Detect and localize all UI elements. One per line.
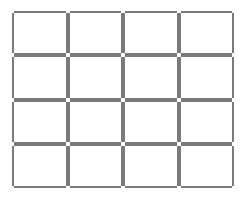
cell-border-top bbox=[70, 100, 122, 102]
cell-border-right bbox=[232, 57, 234, 97]
cell-border-top bbox=[14, 55, 66, 57]
cell-border-top bbox=[14, 144, 66, 146]
grid-cell-r1-c4 bbox=[179, 11, 235, 55]
cell-border-left bbox=[68, 102, 70, 142]
cell-border-top bbox=[125, 11, 177, 13]
cell-border-top bbox=[181, 55, 233, 57]
cell-border-left bbox=[123, 57, 125, 97]
grid-cell-r4-c2 bbox=[68, 144, 124, 188]
cell-border-left bbox=[68, 57, 70, 97]
cell-border-left bbox=[68, 13, 70, 53]
cell-border-bottom bbox=[14, 186, 66, 188]
cell-border-right bbox=[232, 102, 234, 142]
cell-border-top bbox=[70, 144, 122, 146]
cell-border-left bbox=[123, 13, 125, 53]
cell-border-top bbox=[14, 11, 66, 13]
cell-border-top bbox=[181, 11, 233, 13]
grid-cell-r2-c2 bbox=[68, 55, 124, 99]
grid-cell-r3-c1 bbox=[12, 100, 68, 144]
grid-cell-r4-c3 bbox=[123, 144, 179, 188]
cell-border-left bbox=[12, 146, 14, 186]
cell-border-left bbox=[179, 146, 181, 186]
grid-cell-r4-c1 bbox=[12, 144, 68, 188]
grid-cell-r3-c3 bbox=[123, 100, 179, 144]
cell-border-left bbox=[179, 57, 181, 97]
cell-border-top bbox=[14, 100, 66, 102]
cell-border-left bbox=[12, 13, 14, 53]
cell-border-left bbox=[68, 146, 70, 186]
cell-border-top bbox=[125, 100, 177, 102]
grid-cell-r3-c4 bbox=[179, 100, 235, 144]
cell-border-left bbox=[179, 13, 181, 53]
grid-cell-r4-c4 bbox=[179, 144, 235, 188]
cell-border-top bbox=[181, 144, 233, 146]
cell-border-bottom bbox=[70, 186, 122, 188]
grid-cell-r3-c2 bbox=[68, 100, 124, 144]
cell-border-top bbox=[70, 11, 122, 13]
cell-border-left bbox=[123, 102, 125, 142]
cell-border-left bbox=[12, 57, 14, 97]
cell-border-bottom bbox=[125, 186, 177, 188]
cell-border-top bbox=[70, 55, 122, 57]
cell-border-left bbox=[179, 102, 181, 142]
cell-border-top bbox=[125, 144, 177, 146]
cell-border-left bbox=[123, 146, 125, 186]
grid bbox=[12, 11, 234, 188]
grid-cell-r2-c1 bbox=[12, 55, 68, 99]
cell-border-left bbox=[12, 102, 14, 142]
cell-border-bottom bbox=[181, 186, 233, 188]
grid-cell-r2-c3 bbox=[123, 55, 179, 99]
grid-cell-r1-c3 bbox=[123, 11, 179, 55]
grid-cell-r2-c4 bbox=[179, 55, 235, 99]
grid-cell-r1-c1 bbox=[12, 11, 68, 55]
cell-border-top bbox=[125, 55, 177, 57]
grid-cell-r1-c2 bbox=[68, 11, 124, 55]
cell-border-top bbox=[181, 100, 233, 102]
cell-border-right bbox=[232, 146, 234, 186]
cell-border-right bbox=[232, 13, 234, 53]
